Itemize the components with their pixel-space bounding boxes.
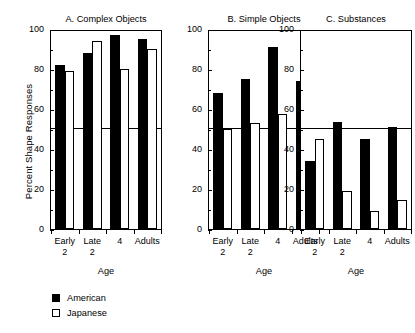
bar-group [51, 31, 79, 229]
bar-group [301, 31, 329, 229]
x-tick-mark [264, 230, 265, 234]
bar-group [237, 31, 265, 229]
y-minor-tick-mark [300, 50, 303, 51]
bar-american-adults [138, 39, 147, 229]
x-tick-mark [384, 230, 385, 234]
bar-group [264, 31, 292, 229]
y-minor-tick-mark [300, 170, 303, 171]
x-tick-mark [79, 230, 80, 234]
x-tick-mark [356, 230, 357, 234]
y-tick-mark [208, 110, 212, 111]
y-minor-tick-mark [50, 170, 53, 171]
plot-area [50, 30, 162, 230]
bars-layer [301, 31, 411, 229]
y-tick-label: 60 [180, 104, 202, 114]
y-minor-tick-mark [208, 90, 211, 91]
bar-american-early-2 [213, 93, 222, 229]
bar-japanese-4 [278, 114, 287, 229]
x-tick-label-line1: Adults [378, 236, 415, 247]
y-tick-label: 60 [272, 104, 294, 114]
y-minor-tick-mark [208, 50, 211, 51]
chart-panel-c: C. Substances020406080100Early2Late24Adu… [300, 0, 412, 333]
bar-group [356, 31, 384, 229]
x-tick-mark [161, 230, 162, 234]
y-tick-mark [208, 30, 212, 31]
x-tick-label-line2: 2 [323, 247, 363, 258]
bar-american-4 [110, 35, 119, 229]
y-tick-label: 20 [22, 184, 44, 194]
x-tick-mark [329, 230, 330, 234]
bar-japanese-late-2 [342, 191, 351, 229]
y-minor-tick-mark [50, 90, 53, 91]
bar-american-adults [388, 127, 397, 229]
bar-american-early-2 [305, 161, 314, 229]
y-tick-label: 80 [272, 64, 294, 74]
y-tick-mark [50, 190, 54, 191]
legend: American Japanese [52, 290, 107, 320]
y-tick-label: 80 [22, 64, 44, 74]
y-tick-label: 0 [272, 224, 294, 234]
y-tick-label: 100 [180, 24, 202, 34]
y-tick-mark [50, 70, 54, 71]
bars-layer [51, 31, 161, 229]
legend-item-american: American [52, 290, 107, 305]
bar-japanese-late-2 [250, 123, 259, 229]
y-minor-tick-mark [50, 50, 53, 51]
bar-japanese-early-2 [315, 139, 324, 229]
y-tick-mark [208, 190, 212, 191]
bar-japanese-adults [147, 49, 156, 229]
y-tick-label: 100 [22, 24, 44, 34]
bar-japanese-early-2 [223, 129, 232, 229]
bar-american-early-2 [55, 65, 64, 229]
figure-container: Percent Shape Responses A. Complex Objec… [0, 0, 415, 333]
y-tick-label: 0 [180, 224, 202, 234]
filled-square-icon [52, 294, 60, 302]
bar-japanese-4 [120, 69, 129, 229]
x-axis-title: Age [300, 266, 412, 276]
panel-title: A. Complex Objects [50, 14, 162, 24]
y-tick-label: 40 [180, 144, 202, 154]
bar-american-4 [360, 139, 369, 229]
y-tick-label: 40 [272, 144, 294, 154]
x-tick-label-line1: Adults [128, 236, 168, 247]
bar-american-late-2 [241, 79, 250, 229]
x-tick-label: Adults [128, 236, 168, 247]
y-minor-tick-mark [208, 130, 211, 131]
x-tick-mark [209, 230, 210, 234]
x-tick-mark [51, 230, 52, 234]
bar-group [329, 31, 357, 229]
legend-label-japanese: Japanese [67, 308, 107, 318]
y-tick-label: 20 [272, 184, 294, 194]
y-tick-label: 40 [22, 144, 44, 154]
x-tick-mark [237, 230, 238, 234]
bar-group [134, 31, 162, 229]
bar-japanese-late-2 [92, 41, 101, 229]
y-minor-tick-mark [50, 130, 53, 131]
y-tick-mark [50, 150, 54, 151]
y-tick-mark [50, 110, 54, 111]
y-tick-label: 100 [272, 24, 294, 34]
legend-item-japanese: Japanese [52, 305, 107, 320]
y-tick-mark [300, 190, 304, 191]
x-tick-mark [134, 230, 135, 234]
bar-american-late-2 [83, 53, 92, 229]
y-tick-mark [300, 110, 304, 111]
x-axis-title: Age [50, 266, 162, 276]
x-tick-label-line2: 2 [231, 247, 271, 258]
panel-title: C. Substances [300, 14, 412, 24]
y-minor-tick-mark [300, 130, 303, 131]
y-tick-mark [50, 30, 54, 31]
x-tick-label: Adults [378, 236, 415, 247]
bar-japanese-adults [397, 200, 406, 229]
y-tick-label: 20 [180, 184, 202, 194]
bar-american-late-2 [333, 122, 342, 229]
y-tick-label: 80 [180, 64, 202, 74]
bar-group [384, 31, 412, 229]
legend-label-american: American [67, 293, 106, 303]
y-minor-tick-mark [208, 170, 211, 171]
y-minor-tick-mark [300, 90, 303, 91]
bar-japanese-early-2 [65, 71, 74, 229]
x-tick-mark [411, 230, 412, 234]
y-tick-mark [208, 70, 212, 71]
bar-group [209, 31, 237, 229]
